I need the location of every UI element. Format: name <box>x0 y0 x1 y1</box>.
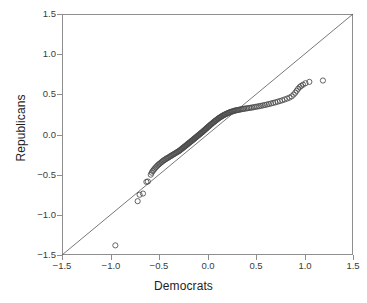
y-axis-tick <box>57 94 62 95</box>
x-axis-tick-label: −0.5 <box>139 261 179 271</box>
x-axis-tick-label: 1.0 <box>285 261 325 271</box>
y-axis-tick-label: 0.0 <box>43 130 56 140</box>
y-axis-tick-label: −0.5 <box>37 170 56 180</box>
y-axis-tick <box>57 54 62 55</box>
y-axis-tick <box>57 135 62 136</box>
y-axis-tick-label: −1.0 <box>37 210 56 220</box>
y-axis-tick-label: 1.5 <box>43 9 56 19</box>
y-axis-tick-label: 1.0 <box>43 49 56 59</box>
y-axis-tick-label: −1.5 <box>37 250 56 260</box>
y-axis-tick <box>57 175 62 176</box>
x-axis-tick-label: −1.0 <box>91 261 131 271</box>
y-axis-tick-label: 0.5 <box>43 89 56 99</box>
y-axis-tick <box>57 215 62 216</box>
x-axis-tick-label: 1.5 <box>333 261 367 271</box>
x-axis-tick-label: −1.5 <box>42 261 82 271</box>
qq-plot-figure: Republicans Democrats 1.51.00.50.0−0.5−1… <box>0 0 367 303</box>
x-axis-tick-label: 0.5 <box>236 261 276 271</box>
y-axis-tick <box>57 14 62 15</box>
x-axis-title: Democrats <box>0 279 367 293</box>
x-axis-tick-label: 0.0 <box>188 261 228 271</box>
y-axis-title: Republicans <box>14 68 28 188</box>
plot-frame <box>62 14 353 255</box>
